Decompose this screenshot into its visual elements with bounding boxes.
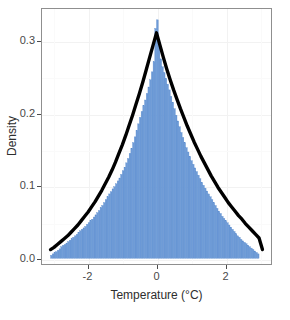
histogram-bar xyxy=(114,187,116,259)
histogram-bar xyxy=(151,72,153,258)
histogram-bar xyxy=(133,143,135,259)
histogram-bar xyxy=(177,121,179,258)
histogram-bar xyxy=(199,179,201,258)
x-tick-mark xyxy=(226,265,227,269)
histogram-bar xyxy=(230,227,232,258)
histogram-bar xyxy=(220,213,222,258)
histogram-bar xyxy=(115,184,117,258)
histogram-bar xyxy=(206,191,208,258)
histogram-bar xyxy=(153,62,155,258)
histogram-bar xyxy=(122,171,124,258)
y-tick-label: 0.3 xyxy=(20,35,35,46)
histogram-bar xyxy=(93,217,95,258)
chart-figure: 0.00.10.20.3 -202 Temperature (°C) Densi… xyxy=(0,0,290,320)
x-tick-mark xyxy=(157,265,158,269)
histogram-bar xyxy=(61,247,63,259)
histogram-bar xyxy=(209,197,211,258)
histogram-bar xyxy=(121,174,123,258)
histogram-bar xyxy=(59,249,61,258)
histogram-bar xyxy=(73,237,75,258)
histogram-bar xyxy=(76,234,78,258)
histogram-bar xyxy=(208,194,210,258)
x-tick-mark xyxy=(88,265,89,269)
histogram-bar xyxy=(168,90,170,258)
y-tick-label: 0.1 xyxy=(20,180,35,191)
histogram-bar xyxy=(52,254,54,258)
histogram-bar xyxy=(163,73,165,259)
y-tick-label: 0.0 xyxy=(20,253,35,264)
y-axis-title: Density xyxy=(5,71,19,201)
histogram-bar xyxy=(88,223,90,258)
histogram-bar xyxy=(66,243,68,258)
histogram-bar xyxy=(172,102,174,258)
histogram-bar xyxy=(227,223,229,258)
histogram-bar xyxy=(145,100,147,258)
y-tick-mark xyxy=(37,41,41,42)
histogram-bar xyxy=(256,252,258,258)
histogram-bar xyxy=(100,208,102,259)
x-axis-title: Temperature (°C) xyxy=(41,288,272,302)
histogram-bar xyxy=(98,211,100,259)
histogram-bar xyxy=(232,229,234,258)
histogram-bar xyxy=(109,194,111,258)
histogram-bar xyxy=(69,240,71,258)
histogram-bar xyxy=(141,112,143,259)
histogram-bar xyxy=(78,232,80,258)
histogram-bar xyxy=(81,229,83,258)
histogram-bar xyxy=(179,127,181,258)
histogram-bar xyxy=(228,225,230,258)
histogram-bar xyxy=(57,250,59,258)
histogram-bar xyxy=(215,205,217,258)
histogram-bar xyxy=(225,221,227,259)
y-tick-mark xyxy=(37,114,41,115)
histogram-bar xyxy=(105,200,107,259)
histogram-bar xyxy=(143,106,145,258)
histogram-bar xyxy=(237,236,239,258)
histogram-bar xyxy=(158,40,160,258)
histogram-bar xyxy=(240,239,242,258)
histogram-bar xyxy=(244,242,246,258)
histogram-bar xyxy=(51,255,53,258)
histogram-bar xyxy=(146,94,148,259)
histogram-bar xyxy=(131,148,133,258)
histogram-bar xyxy=(110,192,112,258)
histogram-bar xyxy=(201,182,203,258)
histogram-bar xyxy=(213,203,215,259)
histogram-bar xyxy=(235,234,237,259)
histogram-bar xyxy=(112,189,114,258)
histogram-bar xyxy=(86,224,88,258)
histogram-bar xyxy=(184,143,186,259)
histogram-bar xyxy=(104,203,106,259)
histogram-bar xyxy=(95,215,97,258)
histogram-bar xyxy=(134,137,136,258)
histogram-bar xyxy=(160,59,162,258)
histogram-bar xyxy=(129,153,131,258)
histogram-bar xyxy=(182,138,184,259)
histogram-bar xyxy=(218,211,220,258)
histogram-bar xyxy=(192,164,194,258)
histogram-bar xyxy=(249,247,251,259)
histogram-bar xyxy=(245,244,247,258)
histogram-bar xyxy=(127,159,129,259)
histogram-bar xyxy=(68,242,70,259)
histogram-bar xyxy=(198,175,200,258)
y-tick-label: 0.2 xyxy=(20,108,35,119)
histogram-bar xyxy=(186,148,188,259)
histogram-bar xyxy=(117,181,119,258)
x-tick-label: 0 xyxy=(153,271,159,282)
histogram-bar xyxy=(56,252,58,258)
histogram-bar xyxy=(83,228,85,258)
histogram-bar xyxy=(257,254,259,258)
histogram-bar xyxy=(148,87,150,258)
histogram-bar xyxy=(252,250,254,259)
histogram-bar xyxy=(155,29,157,259)
y-tick-mark xyxy=(37,259,41,260)
x-tick-label: 2 xyxy=(222,271,228,282)
histogram-bar xyxy=(90,221,92,259)
histogram-bar xyxy=(191,161,193,259)
histogram-bar xyxy=(242,241,244,258)
histogram-bar xyxy=(170,96,172,258)
histogram-bar xyxy=(233,231,235,258)
histogram-bar xyxy=(162,67,164,258)
histogram-bar xyxy=(138,124,140,258)
